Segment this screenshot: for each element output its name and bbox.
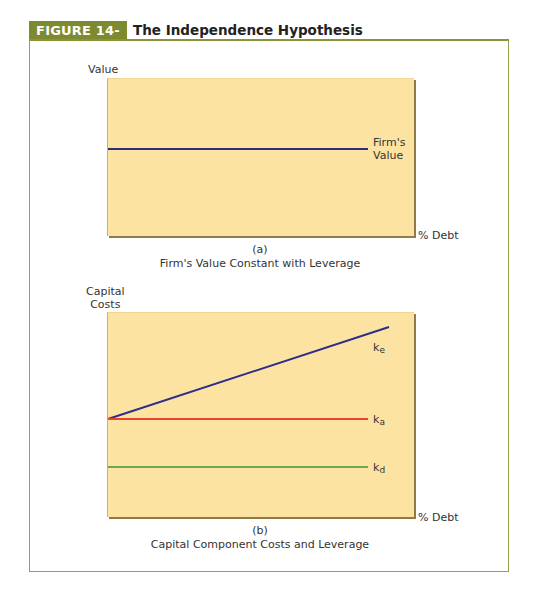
panel-b-x-axis-label: % Debt <box>418 511 458 524</box>
kd-label-sub: d <box>379 465 385 475</box>
ke-label-sub: e <box>379 345 385 355</box>
ke-line <box>108 327 389 419</box>
kd-label: kd <box>373 461 385 477</box>
ka-label-sub: a <box>379 417 385 427</box>
ka-label: ka <box>373 413 385 429</box>
panel-b-id: (b) <box>107 524 413 538</box>
ke-label: ke <box>373 341 385 357</box>
panel-b-lines <box>0 0 538 598</box>
panel-b-caption: (b) Capital Component Costs and Leverage <box>107 524 413 552</box>
panel-b-caption-text: Capital Component Costs and Leverage <box>107 538 413 552</box>
